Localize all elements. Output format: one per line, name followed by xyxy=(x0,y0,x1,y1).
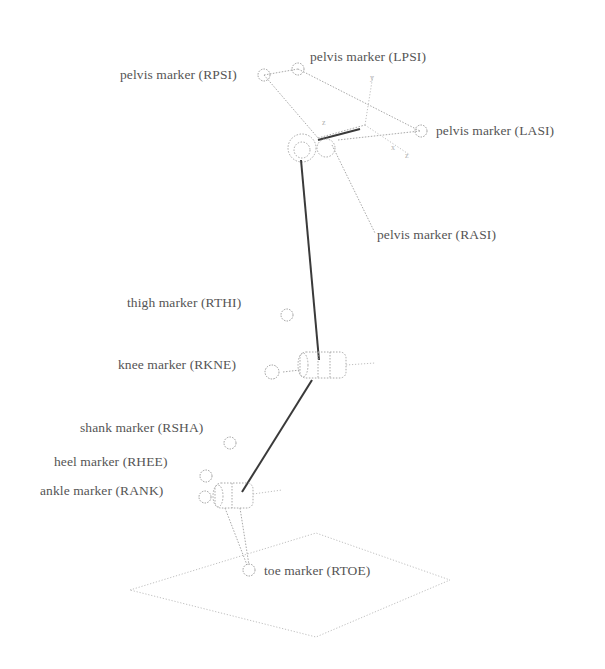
marker-rkne xyxy=(265,365,279,379)
label-rthi: thigh marker (RTHI) xyxy=(127,296,241,310)
axis-label-z: z xyxy=(322,118,326,127)
pelvis-frame: y z z x xyxy=(264,69,420,233)
marker-rsha xyxy=(224,437,236,449)
marker-rthi xyxy=(281,309,293,321)
label-rsha: shank marker (RSHA) xyxy=(80,421,203,435)
label-lasi: pelvis marker (LASI) xyxy=(436,124,554,138)
marker-rtoe xyxy=(243,564,255,576)
axis-label-y: y xyxy=(370,73,374,82)
marker-rank xyxy=(199,491,211,503)
shank-segment xyxy=(242,380,312,492)
axis-label-z2: z xyxy=(405,151,409,160)
axis-label-x: x xyxy=(391,143,395,152)
label-rtoe: toe marker (RTOE) xyxy=(264,564,370,578)
label-rpsi: pelvis marker (RPSI) xyxy=(120,68,237,82)
label-rhee: heel marker (RHEE) xyxy=(54,455,168,469)
marker-rhee xyxy=(200,470,212,482)
label-rasi: pelvis marker (RASI) xyxy=(377,228,496,242)
ground-plane xyxy=(130,533,450,637)
label-rank: ankle marker (RANK) xyxy=(40,484,163,498)
knee-joint xyxy=(283,352,375,378)
thigh-segment xyxy=(301,160,319,360)
ankle-joint xyxy=(213,483,282,565)
label-rkne: knee marker (RKNE) xyxy=(118,358,236,372)
label-lpsi: pelvis marker (LPSI) xyxy=(310,50,426,64)
